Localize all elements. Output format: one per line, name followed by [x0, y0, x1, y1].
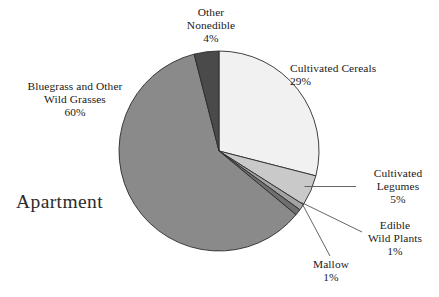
slice-label-other-nonedible-line1: Other	[152, 6, 270, 19]
slice-label-mallow: Mallow 1%	[288, 258, 374, 284]
pie-chart: Other Nonedible 4% Cultivated Cereals 29…	[0, 0, 439, 297]
slice-label-cultivated-legumes-line1: Cultivated	[358, 167, 438, 180]
slice-label-other-nonedible: Other Nonedible 4%	[152, 6, 270, 44]
slice-label-cultivated-cereals: Cultivated Cereals 29%	[290, 62, 434, 88]
slice-label-edible-wild-plants-line1: Edible	[352, 219, 438, 232]
slice-label-edible-wild-plants-line2: Wild Plants	[352, 232, 438, 245]
slice-label-cultivated-legumes: Cultivated Legumes 5%	[358, 167, 438, 205]
slice-label-cultivated-legumes-line2: Legumes	[358, 180, 438, 193]
slice-label-cultivated-cereals-text: Cultivated Cereals	[290, 62, 434, 75]
slice-label-bluegrass-line2: Wild Grasses	[4, 93, 146, 106]
slice-value-bluegrass: 60%	[4, 106, 146, 119]
slice-label-edible-wild-plants: Edible Wild Plants 1%	[352, 219, 438, 257]
slice-value-edible-wild-plants: 1%	[352, 245, 438, 258]
slice-value-cultivated-cereals: 29%	[290, 75, 434, 88]
watermark-apartment: Apartment	[16, 191, 103, 213]
slice-value-other-nonedible: 4%	[152, 32, 270, 45]
slice-value-cultivated-legumes: 5%	[358, 193, 438, 206]
pie-slices-group	[119, 51, 319, 251]
slice-label-bluegrass: Bluegrass and Other Wild Grasses 60%	[4, 80, 146, 118]
slice-value-mallow: 1%	[288, 271, 374, 284]
slice-label-bluegrass-line1: Bluegrass and Other	[4, 80, 146, 93]
slice-label-mallow-text: Mallow	[288, 258, 374, 271]
slice-label-other-nonedible-line2: Nonedible	[152, 19, 270, 32]
leader-line-mallow	[302, 203, 331, 257]
